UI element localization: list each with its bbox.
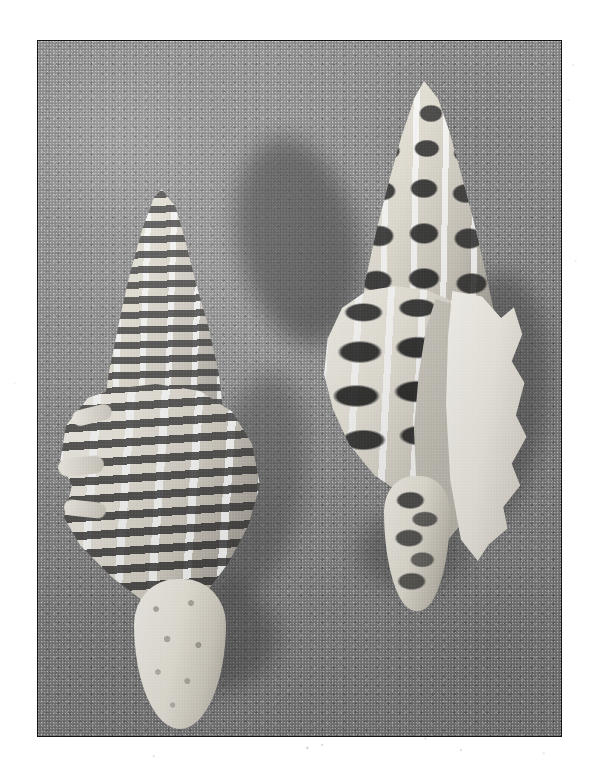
photo-frame (37, 40, 562, 737)
photo-vignette (38, 41, 561, 736)
page (0, 0, 591, 767)
